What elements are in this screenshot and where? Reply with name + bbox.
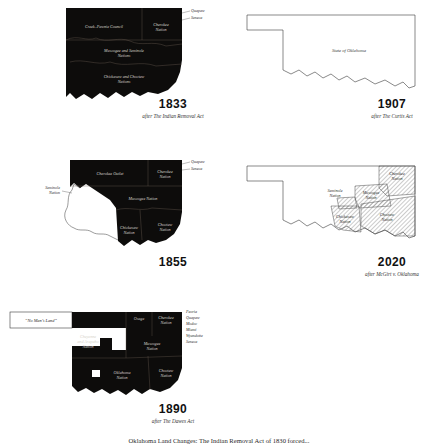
panel-year: 2020 bbox=[337, 256, 438, 269]
panel-year: 1907 bbox=[337, 98, 438, 111]
map-label: Creek–Pawnie Council bbox=[85, 24, 124, 29]
map-label: Nation bbox=[145, 346, 157, 351]
map-label: State of Oklahoma bbox=[332, 48, 367, 53]
figure-bottom-caption: Oklahoma Land Changes: The Indian Remova… bbox=[0, 437, 438, 444]
panel-year: 1855 bbox=[118, 256, 228, 269]
interior-white-patch bbox=[92, 370, 100, 377]
map-label: Cherokee Outlet bbox=[97, 171, 125, 176]
map-1855: Cherokee Outlet Cherokee Nation Muscogee… bbox=[0, 148, 219, 298]
panel-subcaption: after McGirt v. Oklahoma bbox=[337, 271, 438, 277]
panel-subcaption: after The Indian Removal Act bbox=[118, 113, 228, 119]
callout-label: Quapaw bbox=[191, 159, 205, 164]
panel-subcaption: after The Dawes Act bbox=[118, 418, 228, 424]
empty-cell bbox=[219, 298, 438, 445]
callout-label: Seneca bbox=[191, 166, 202, 171]
map-callouts-1833: Quapaw Seneca bbox=[182, 8, 205, 20]
map-label: Nation bbox=[364, 195, 376, 200]
callout-label: Seneca bbox=[186, 339, 197, 344]
panel-caption-1833: 1833 after The Indian Removal Act bbox=[118, 98, 228, 119]
map-label: Nation bbox=[159, 320, 171, 325]
map-figure-grid: Creek–Pawnie Council Cherokee Nation Mus… bbox=[0, 0, 438, 445]
callout-label: Quapaw bbox=[186, 315, 200, 320]
panel-caption-1907: 1907 after The Curtis Act bbox=[337, 98, 438, 119]
map-panel-2020: Cherokee Nation Muscogee Nation Seminole… bbox=[219, 148, 438, 298]
map-label: Nations bbox=[117, 53, 131, 58]
map-1907: State of Oklahoma bbox=[219, 0, 438, 148]
callout-label: Seneca bbox=[191, 15, 202, 20]
callout-label: Miami bbox=[185, 327, 196, 332]
map-label: Nation bbox=[154, 27, 166, 32]
map-callouts-1890: Peoria Quapaw Modoc Miami Wyandotte Sene… bbox=[185, 309, 203, 344]
callout-label: Wyandotte bbox=[186, 333, 203, 338]
map-label: Nations bbox=[117, 79, 131, 84]
map-label: Nation bbox=[159, 373, 171, 378]
map-label: Nation bbox=[158, 227, 170, 232]
panel-subcaption: after The Curtis Act bbox=[337, 113, 438, 119]
map-panel-1833: Creek–Pawnie Council Cherokee Nation Mus… bbox=[0, 0, 219, 148]
panel-year: 1890 bbox=[118, 403, 228, 416]
map-label: “No Man’s Land” bbox=[25, 318, 57, 323]
map-panel-1890: “No Man’s Land” Osage Cherokee Nation Ch… bbox=[0, 298, 219, 445]
map-label: Nation bbox=[158, 174, 170, 179]
callout-label: Nation bbox=[48, 190, 60, 195]
panel-caption-1855: 1855 bbox=[118, 256, 228, 271]
panel-year: 1833 bbox=[118, 98, 228, 111]
callout-label: Modoc bbox=[185, 321, 197, 326]
map-label: Nation bbox=[115, 375, 127, 380]
map-panel-1855: Cherokee Outlet Cherokee Nation Muscogee… bbox=[0, 148, 219, 298]
map-label: Osage bbox=[134, 316, 145, 321]
map-1833: Creek–Pawnie Council Cherokee Nation Mus… bbox=[0, 0, 219, 148]
callout-label: Peoria bbox=[185, 309, 197, 314]
map-label: Nation bbox=[81, 344, 93, 349]
callout-label: Quapaw bbox=[191, 8, 205, 13]
map-label: Nation bbox=[338, 219, 350, 224]
panel-caption-1890: 1890 after The Dawes Act bbox=[118, 403, 228, 424]
map-panel-1907: State of Oklahoma 1907 after The Curtis … bbox=[219, 0, 438, 148]
map-label: Nation bbox=[328, 193, 340, 198]
panel-caption-2020: 2020 after McGirt v. Oklahoma bbox=[337, 256, 438, 277]
map-label: Nation bbox=[380, 217, 392, 222]
map-label: Nation bbox=[122, 230, 134, 235]
map-label: Muscogee Nation bbox=[128, 196, 158, 201]
map-label: Nation bbox=[390, 176, 402, 181]
